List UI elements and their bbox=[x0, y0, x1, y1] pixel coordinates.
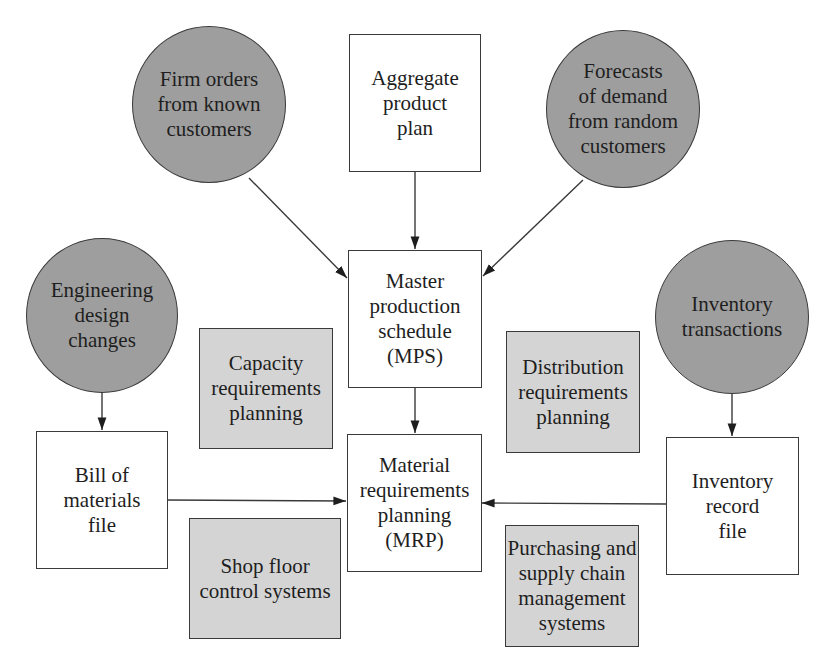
inventory-transactions-label: Inventory transactions bbox=[682, 292, 782, 342]
engineering-changes-node: Engineering design changes bbox=[26, 238, 178, 393]
bom-file-label: Bill of materials file bbox=[64, 463, 141, 538]
edge-forecasts-to-mps bbox=[483, 180, 583, 276]
firm-orders-label: Firm orders from known customers bbox=[157, 67, 260, 142]
shop-floor-label: Shop floor control systems bbox=[199, 554, 330, 604]
mps-label: Master production schedule (MPS) bbox=[370, 269, 461, 369]
engineering-changes-label: Engineering design changes bbox=[51, 278, 154, 353]
purchasing-node: Purchasing and supply chain management s… bbox=[505, 525, 639, 647]
mrp-label: Material requirements planning (MRP) bbox=[360, 453, 470, 553]
capacity-planning-node: Capacity requirements planning bbox=[199, 328, 333, 449]
capacity-planning-label: Capacity requirements planning bbox=[211, 351, 321, 426]
mps-node: Master production schedule (MPS) bbox=[348, 250, 482, 388]
purchasing-label: Purchasing and supply chain management s… bbox=[508, 536, 637, 636]
aggregate-plan-node: Aggregate product plan bbox=[349, 34, 481, 172]
firm-orders-node: Firm orders from known customers bbox=[132, 26, 286, 183]
inventory-record-label: Inventory record file bbox=[692, 469, 774, 544]
edge-firm-orders-to-mps bbox=[249, 178, 347, 278]
edge-inventory-record-to-mrp bbox=[482, 503, 666, 504]
inventory-record-node: Inventory record file bbox=[666, 437, 799, 575]
distribution-planning-node: Distribution requirements planning bbox=[506, 331, 640, 453]
aggregate-plan-label: Aggregate product plan bbox=[371, 66, 458, 141]
distribution-planning-label: Distribution requirements planning bbox=[518, 355, 628, 430]
edge-bom-to-mrp bbox=[167, 500, 346, 501]
mrp-node: Material requirements planning (MRP) bbox=[347, 434, 482, 572]
mrp-system-diagram: Firm orders from known customers Forecas… bbox=[0, 0, 831, 671]
inventory-transactions-node: Inventory transactions bbox=[655, 240, 809, 394]
shop-floor-node: Shop floor control systems bbox=[189, 518, 341, 639]
forecasts-node: Forecasts of demand from random customer… bbox=[546, 30, 700, 188]
bom-file-node: Bill of materials file bbox=[36, 431, 168, 569]
forecasts-label: Forecasts of demand from random customer… bbox=[568, 59, 678, 159]
